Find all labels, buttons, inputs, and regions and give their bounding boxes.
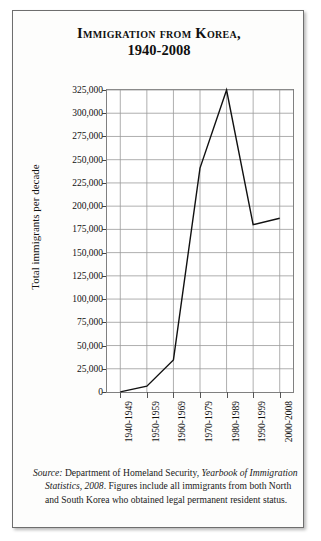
source-label: Source: <box>33 467 62 478</box>
y-axis-tick-label: 300,000 <box>49 108 103 118</box>
y-axis-tick-label: 275,000 <box>49 131 103 141</box>
x-axis-tick-label: 1990-1999 <box>257 401 267 442</box>
plot-frame <box>106 89 294 393</box>
line-chart-svg <box>107 90 293 392</box>
chart-figure: Immigration from Korea, 1940-2008 Total … <box>12 10 304 528</box>
y-axis-tick-label: 0 <box>49 387 103 397</box>
y-axis-tick-label: 25,000 <box>49 364 103 374</box>
x-axis-tick-mark <box>200 392 201 398</box>
source-agency: Department of Homeland Security, <box>62 467 201 478</box>
x-axis-tick-label: 1960-1969 <box>177 401 187 442</box>
x-axis-tick-mark <box>120 392 121 398</box>
y-axis-tick-label: 50,000 <box>49 341 103 351</box>
x-axis-tick-label: 2000-2008 <box>284 401 294 442</box>
y-axis-title: Total immigrants per decade <box>29 127 41 327</box>
x-axis-tick-mark <box>173 392 174 398</box>
source-note: Source: Department of Homeland Security,… <box>33 466 300 506</box>
y-axis-tick-labels: 025,00050,00075,000100,000125,000150,000… <box>43 90 103 392</box>
x-axis-tick-mark <box>227 392 228 398</box>
x-axis-tick-labels: 1940-19491950-19591960-19691970-19791980… <box>107 401 307 459</box>
x-axis-tick-mark <box>280 392 281 398</box>
chart-title-line-2: 1940-2008 <box>13 42 305 59</box>
x-axis-tick-label: 1940-1949 <box>124 401 134 442</box>
plot-area: Total immigrants per decade 025,00050,00… <box>13 71 305 461</box>
x-axis-tick-mark <box>253 392 254 398</box>
y-axis-tick-label: 150,000 <box>49 248 103 258</box>
y-axis-tick-label: 325,000 <box>49 85 103 95</box>
y-axis-tick-label: 225,000 <box>49 178 103 188</box>
y-axis-tick-label: 175,000 <box>49 224 103 234</box>
y-axis-tick-label: 200,000 <box>49 201 103 211</box>
x-axis-tick-mark <box>147 392 148 398</box>
y-axis-tick-label: 100,000 <box>49 294 103 304</box>
x-axis-tick-label: 1980-1989 <box>231 401 241 442</box>
y-axis-tick-label: 75,000 <box>49 317 103 327</box>
y-axis-tick-label: 125,000 <box>49 271 103 281</box>
y-axis-tick-label: 250,000 <box>49 155 103 165</box>
vertical-gridlines <box>120 90 279 392</box>
chart-title: Immigration from Korea, 1940-2008 <box>13 25 305 59</box>
x-axis-tick-label: 1950-1959 <box>151 401 161 442</box>
chart-title-line-1: Immigration from Korea, <box>13 25 305 42</box>
x-axis-tick-label: 1970-1979 <box>204 401 214 442</box>
x-axis-tick-marks <box>107 392 293 399</box>
